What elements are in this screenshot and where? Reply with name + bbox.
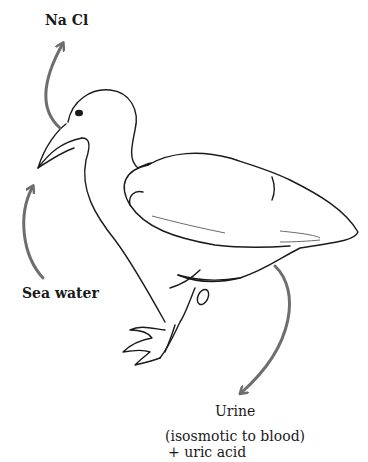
bird-diagram [0,0,368,462]
urine-note-isosmotic: (isosmotic to blood) [165,428,305,444]
nacl-label: Na Cl [45,12,88,28]
eye [75,110,83,116]
seawater-in-arrow [24,188,43,278]
sea-water-label: Sea water [22,285,99,301]
urine-out-arrow [242,266,290,392]
nacl-out-arrow [46,45,62,128]
wing-feather-lines [152,216,320,242]
urine-label: Urine [215,403,255,419]
urine-note-uric-acid: + uric acid [168,444,246,460]
